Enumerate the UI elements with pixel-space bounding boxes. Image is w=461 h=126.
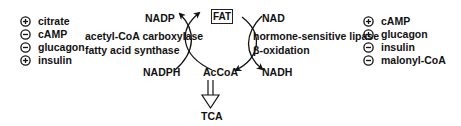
degradation-regulator: glucagon xyxy=(363,28,428,41)
regulator-label: insulin xyxy=(381,41,415,53)
regulator-label: cAMP xyxy=(38,28,67,40)
tca-label: TCA xyxy=(201,110,223,122)
minus-circle-icon xyxy=(20,29,31,40)
degradation-regulator: insulin xyxy=(363,41,415,54)
regulator-label: glucagon xyxy=(38,41,85,53)
regulator-label: malonyl-CoA xyxy=(381,54,446,66)
degradation-regulator: cAMP xyxy=(363,15,410,28)
minus-circle-icon xyxy=(363,42,374,53)
synthesis-regulator: cAMP xyxy=(20,28,67,41)
plus-circle-icon xyxy=(20,55,31,66)
tca-arrow xyxy=(202,80,219,108)
nadph-label: NADPH xyxy=(143,66,180,78)
degradation-regulator: malonyl-CoA xyxy=(363,54,446,67)
regulator-label: insulin xyxy=(38,54,72,66)
minus-circle-icon xyxy=(363,55,374,66)
synthesis-regulator: glucagon xyxy=(20,41,85,54)
nad-label: NAD xyxy=(262,12,285,24)
nadp-label: NADP xyxy=(145,12,175,24)
degradation-arc-cofactor xyxy=(249,16,263,69)
regulator-label: cAMP xyxy=(381,15,410,27)
regulator-label: glucagon xyxy=(381,28,428,40)
acetyl-coa-label: AcCoA xyxy=(203,66,238,78)
plus-circle-icon xyxy=(20,16,31,27)
degradation-enzyme: hormone-sensitive lipase xyxy=(253,30,379,42)
plus-circle-icon xyxy=(363,29,374,40)
nadh-label: NADH xyxy=(262,66,292,78)
regulator-label: citrate xyxy=(38,15,70,27)
plus-circle-icon xyxy=(363,16,374,27)
minus-circle-icon xyxy=(20,42,31,53)
synthesis-regulator: citrate xyxy=(20,15,70,28)
synthesis-regulator: insulin xyxy=(20,54,72,67)
synthesis-enzyme: acetyl-CoA carboxylase xyxy=(85,30,203,42)
synthesis-arc-cofactor xyxy=(175,14,191,70)
degradation-enzyme: β-oxidation xyxy=(253,44,310,56)
fat-box: FAT xyxy=(211,9,233,24)
synthesis-enzyme: fatty acid synthase xyxy=(85,44,180,56)
